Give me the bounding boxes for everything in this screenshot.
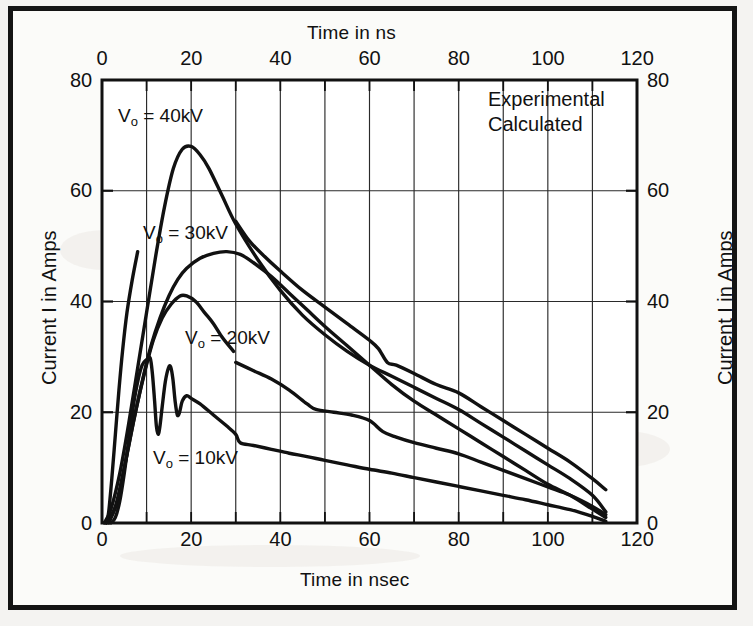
- left-tick-0: 0: [81, 512, 92, 535]
- top-tick-80: 80: [448, 47, 470, 70]
- curve-label-40kv-prefix: V: [118, 105, 131, 126]
- curve-label-30kv-prefix: V: [143, 222, 156, 243]
- figure-page: Time in ns Time in nsec Current I in Amp…: [0, 0, 753, 626]
- curve-label-40kv-suffix: = 40kV: [138, 105, 203, 126]
- curve-label-30kv-sub: o: [156, 231, 163, 246]
- curve-label-10kv-prefix: V: [153, 447, 166, 468]
- top-tick-0: 0: [97, 47, 108, 70]
- curve-label-30kv: Vo = 30kV: [143, 222, 228, 244]
- right-tick-0: 0: [647, 512, 658, 535]
- right-tick-40: 40: [647, 290, 669, 313]
- bottom-tick-60: 60: [359, 528, 381, 551]
- right-tick-60: 60: [647, 179, 669, 202]
- bottom-tick-20: 20: [180, 528, 202, 551]
- curve-label-20kv-sub: o: [198, 336, 205, 351]
- left-tick-40: 40: [70, 290, 92, 313]
- curve-label-10kv-suffix: = 10kV: [173, 447, 238, 468]
- legend-entry-experimental: Experimental: [488, 88, 605, 111]
- bottom-tick-80: 80: [448, 528, 470, 551]
- left-tick-80: 80: [70, 69, 92, 92]
- left-tick-60: 60: [70, 179, 92, 202]
- top-axis-title: Time in ns: [307, 22, 396, 44]
- curve-label-10kv: Vo = 10kV: [153, 447, 238, 469]
- curve-label-30kv-suffix: = 30kV: [163, 222, 228, 243]
- top-tick-20: 20: [180, 47, 202, 70]
- bottom-axis-title: Time in nsec: [300, 569, 409, 591]
- right-tick-20: 20: [647, 401, 669, 424]
- top-tick-40: 40: [269, 47, 291, 70]
- left-axis-title: Current I in Amps: [38, 230, 61, 385]
- bottom-tick-0: 0: [97, 528, 108, 551]
- left-tick-20: 20: [70, 401, 92, 424]
- bottom-tick-100: 100: [531, 528, 564, 551]
- curve-label-20kv-prefix: V: [185, 327, 198, 348]
- top-tick-100: 100: [531, 47, 564, 70]
- curve-label-20kv-suffix: = 20kV: [205, 327, 270, 348]
- top-tick-120: 120: [621, 47, 654, 70]
- top-tick-60: 60: [359, 47, 381, 70]
- curve-label-40kv: Vo = 40kV: [118, 105, 203, 127]
- curve-label-10kv-sub: o: [166, 456, 173, 471]
- bottom-tick-40: 40: [269, 528, 291, 551]
- legend-entry-calculated: Calculated: [488, 113, 583, 136]
- curve-label-40kv-sub: o: [131, 114, 138, 129]
- right-axis-title: Current I in Amps: [714, 230, 737, 385]
- curve-label-20kv: Vo = 20kV: [185, 327, 270, 349]
- right-tick-80: 80: [647, 69, 669, 92]
